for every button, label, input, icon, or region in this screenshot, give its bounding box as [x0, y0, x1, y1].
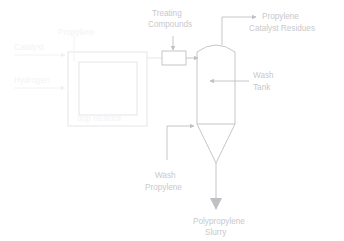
wash-tank-dome	[197, 45, 235, 52]
wash-tank-label-line1: Wash	[253, 71, 274, 80]
propylene-residues-label-line2: Catalyst Residues	[249, 24, 315, 33]
treating-compounds-vessel	[162, 36, 186, 65]
loop-reactor: oop Reactor	[68, 52, 147, 126]
wash-tank-cone	[197, 124, 235, 163]
polypropylene-slurry-outlet	[210, 163, 222, 210]
lower-feed-label: Hydrogen	[14, 76, 50, 85]
propylene-residues-label-line1: Propylene	[262, 12, 299, 21]
loop-reactor-inner-loop	[79, 62, 137, 115]
wash-tank	[197, 45, 235, 163]
upper-feed-inlet: Catalyst	[14, 43, 65, 55]
loop-reactor-label: oop Reactor	[77, 114, 122, 123]
treating-compounds-label-line2: Compounds	[148, 20, 192, 29]
diagram-canvas: oop Reactor Propylene Catalyst Hydrogen …	[0, 0, 344, 241]
wash-propylene-feed	[167, 126, 194, 160]
polypropylene-slurry-label-line2: Slurry	[205, 228, 227, 237]
reactor-top-label: Propylene	[58, 28, 95, 37]
propylene-catalyst-residues-label: Propylene Catalyst Residues	[249, 12, 315, 33]
treating-vessel-body	[162, 51, 186, 65]
wash-tank-label-line2: Tank	[253, 83, 271, 92]
wash-tank-label: Wash Tank	[253, 71, 274, 92]
treating-compounds-label-line1: Treating	[152, 9, 182, 18]
process-flow-diagram: oop Reactor Propylene Catalyst Hydrogen …	[0, 0, 344, 241]
polypropylene-slurry-label-line1: Polypropylene	[193, 217, 245, 226]
slurry-outlet-arrowhead	[210, 198, 222, 210]
wash-propylene-label: Wash Propylene	[145, 171, 182, 192]
wash-propylene-feed-line	[167, 126, 194, 160]
upper-feed-label: Catalyst	[14, 43, 44, 52]
lower-feed-inlet: Hydrogen	[14, 76, 65, 88]
polypropylene-slurry-label: Polypropylene Slurry	[193, 217, 245, 237]
treating-compounds-label: Treating Compounds	[148, 9, 192, 29]
wash-propylene-label-line2: Propylene	[145, 183, 182, 192]
wash-propylene-label-line1: Wash	[155, 171, 176, 180]
